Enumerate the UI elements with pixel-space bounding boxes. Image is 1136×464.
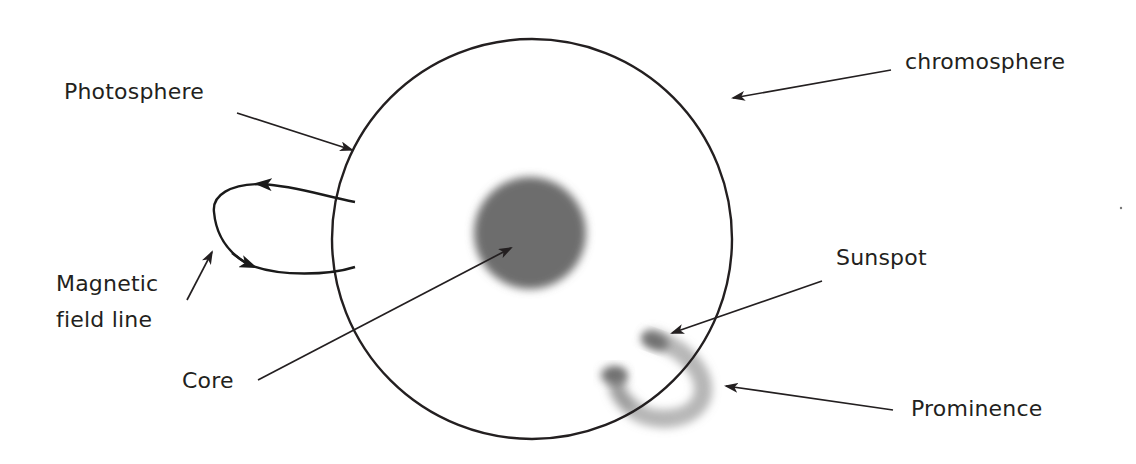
core-arrow (258, 248, 511, 380)
label-sunspot: Sunspot (836, 245, 927, 270)
core-shape (474, 177, 586, 289)
label-magnetic-line1: Magnetic (56, 271, 158, 296)
chromosphere-arrow (733, 70, 891, 98)
photosphere-arrow (237, 113, 352, 150)
magnetic-field-loop-upper (262, 184, 355, 202)
label-photosphere: Photosphere (64, 79, 204, 104)
prominence-shape (617, 338, 704, 419)
magnetic-field-loop-lower-tail (250, 265, 355, 274)
label-prominence: Prominence (911, 396, 1043, 421)
sun-structure-diagram: chromosphere Photosphere Magnetic field … (0, 0, 1136, 464)
prominence-foot (601, 366, 627, 384)
magnetic-field-loop (214, 184, 262, 263)
magnetic-field-arrow (187, 252, 212, 300)
prominence-arrow (726, 386, 893, 410)
speck (1120, 207, 1122, 209)
label-core: Core (182, 368, 234, 393)
sunspot-arrow (672, 281, 822, 333)
magnetic-field-loop-lower (232, 253, 250, 265)
label-magnetic-line2: field line (56, 307, 152, 332)
label-chromosphere: chromosphere (905, 49, 1065, 74)
